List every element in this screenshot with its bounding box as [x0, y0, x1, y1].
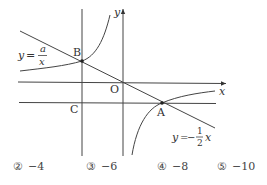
svg-text:x: x [39, 56, 45, 67]
horizontal-line-ca [19, 103, 216, 104]
option-5[interactable]: ⑤−10 [217, 160, 255, 173]
curve-equation-label: y = a x [17, 43, 47, 67]
option-3-value: −6 [101, 160, 117, 173]
option-4-marker: ④ [157, 160, 167, 173]
graph-diagram: y x O B A C y = a x y = − 1 2 x [0, 0, 267, 160]
point-b-label: B [73, 46, 81, 59]
point-b-dot [80, 59, 84, 63]
point-a-label: A [156, 106, 166, 119]
x-axis-label: x [219, 85, 226, 98]
line-equation-label: y = − 1 2 x [171, 126, 212, 148]
svg-text:y: y [171, 131, 179, 144]
svg-text:y: y [17, 49, 25, 62]
option-3[interactable]: ③−6 [86, 160, 117, 173]
option-4-value: −8 [172, 160, 188, 173]
origin-label: O [110, 83, 119, 96]
svg-text:=: = [26, 49, 35, 62]
option-2[interactable]: ②−4 [13, 160, 44, 173]
point-a-dot [160, 101, 164, 105]
svg-text:1: 1 [197, 126, 203, 136]
option-2-marker: ② [13, 160, 23, 173]
point-c-label: C [70, 103, 78, 116]
option-2-value: −4 [28, 160, 44, 173]
hyperbola-branch-upper-left [20, 15, 110, 71]
option-4[interactable]: ④−8 [157, 160, 188, 173]
line-y-neg-half-x [20, 31, 215, 128]
y-axis-label: y [113, 6, 121, 19]
svg-text:x: x [205, 131, 212, 144]
answer-options: ②−4 ③−6 ④−8 ⑤−10 [0, 156, 267, 180]
option-5-marker: ⑤ [217, 160, 227, 173]
option-3-marker: ③ [86, 160, 96, 173]
option-5-value: −10 [232, 160, 255, 173]
svg-text:−: − [187, 132, 195, 143]
svg-text:2: 2 [197, 138, 203, 148]
svg-text:a: a [40, 43, 46, 54]
